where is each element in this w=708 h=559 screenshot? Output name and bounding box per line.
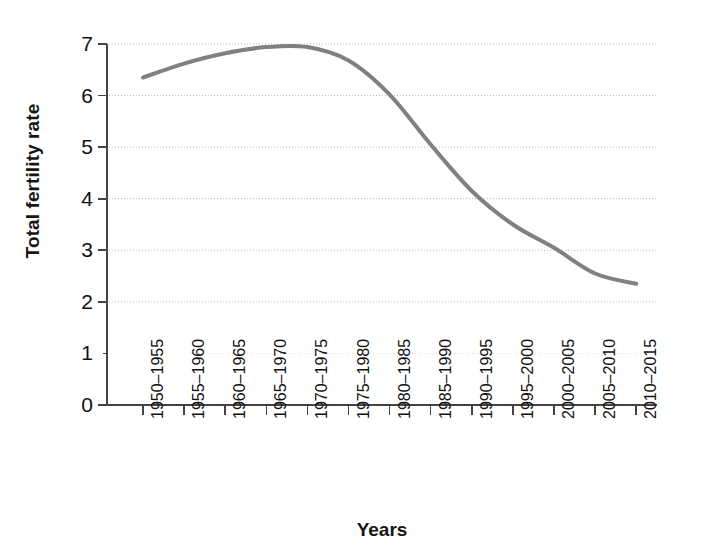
x-tick-label: 2005–2010	[601, 339, 619, 419]
x-tick-label: 1995–2000	[519, 339, 537, 419]
y-tick-label: 2	[59, 291, 93, 312]
x-tick-label: 2010–2015	[642, 339, 660, 419]
x-tick-label: 1965–1970	[272, 339, 290, 419]
fertility-rate-line-chart: Total fertility rate Years 01234567 1950…	[0, 0, 708, 559]
y-tick-label: 0	[59, 394, 93, 415]
x-tick-label: 1985–1990	[437, 339, 455, 419]
y-tick-label: 1	[59, 342, 93, 363]
x-tick-label: 1980–1985	[396, 339, 414, 419]
x-tick-label: 1950–1955	[149, 339, 167, 419]
x-tick-label: 1970–1975	[313, 339, 331, 419]
data-series-line	[143, 46, 636, 284]
y-axis-tick-marks	[98, 44, 107, 405]
y-tick-label: 5	[59, 136, 93, 157]
x-tick-label: 1960–1965	[231, 339, 249, 419]
y-tick-label: 7	[59, 33, 93, 54]
x-tick-label: 1975–1980	[355, 339, 373, 419]
x-tick-label: 2000–2005	[560, 339, 578, 419]
x-tick-label: 1955–1960	[190, 339, 208, 419]
plot-area	[0, 0, 708, 559]
y-tick-label: 3	[59, 239, 93, 260]
y-tick-label: 4	[59, 188, 93, 209]
x-tick-label: 1990–1995	[478, 339, 496, 419]
series-line-0	[143, 46, 636, 284]
y-tick-label: 6	[59, 85, 93, 106]
